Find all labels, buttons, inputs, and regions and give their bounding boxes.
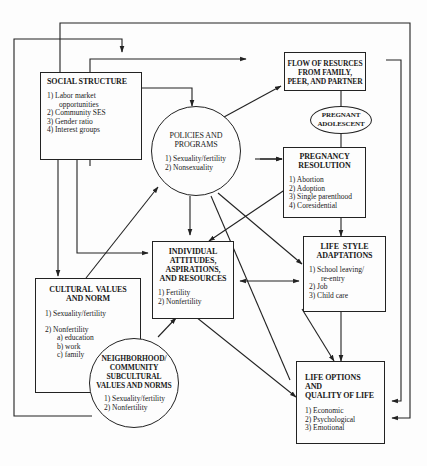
- individual-title-4: AND RESOURCES: [158, 274, 228, 283]
- individual-title-2: ATTITUDES,: [158, 256, 228, 265]
- individual-title-1: INDIVIDUAL: [158, 247, 228, 256]
- policies-title-2: PROGRAMS: [152, 140, 240, 149]
- neighborhood-title-4: VALUES AND NORMS: [90, 381, 178, 390]
- neighborhood-title-1: NEIGHBORHOOD/: [90, 354, 178, 363]
- diagram-canvas: SOCIAL STRUCTURE 1) Labor market opportu…: [0, 0, 427, 466]
- social-item-4: 4) Interest groups: [47, 126, 135, 135]
- node-policies: POLICIES AND PROGRAMS 1) Sexuality/ferti…: [151, 106, 241, 196]
- lifeoptions-title-2: QUALITY OF LIFE: [305, 391, 376, 400]
- neighborhood-community-node: NEIGHBORHOOD/ COMMUNITY SUBCULTURAL VALU…: [89, 338, 179, 428]
- lifeoptions-item-3: 3) Emotional: [305, 424, 376, 433]
- node-flow-resources-box: FLOW OF RESURCES FROM FAMILY, PEER, AND …: [284, 52, 366, 91]
- individual-item-2: 2) Nonfertility: [158, 298, 228, 307]
- neighborhood-title-2: COMMUNITY: [90, 363, 178, 372]
- pregnant-title-2: ADOLESCENT: [311, 120, 371, 129]
- cultural-title-1: CULTURAL VALUES: [45, 285, 131, 294]
- node-pregnant-adolescent: PREGNANT ADOLESCENT: [310, 106, 372, 134]
- cultural-title-2: AND NORM: [45, 294, 131, 303]
- policies-title-1: POLICIES AND: [152, 131, 240, 140]
- resolution-title-1: PREGNANCY: [289, 152, 360, 161]
- cultural-item-1: 1) Sexuality/fertility: [45, 310, 131, 319]
- lifestyle-title-2: ADAPTATIONS: [309, 251, 380, 260]
- resolution-item-4: 4) Coresidential: [289, 202, 360, 211]
- flow-title-3: PEER, AND PARTNER: [285, 77, 365, 86]
- flow-title-1: FLOW OF RESURCES: [285, 59, 365, 68]
- node-individual: INDIVIDUAL ATTITUDES, ASPIRATIONS, AND R…: [152, 241, 234, 319]
- lifestyle-title-1: LIFE STYLE: [309, 242, 380, 251]
- node-life-options: LIFE OPTIONS AND QUALITY OF LIFE 1) Econ…: [296, 361, 385, 444]
- node-social-structure: SOCIAL STRUCTURE 1) Labor market opportu…: [40, 72, 142, 160]
- node-life-style: LIFE STYLE ADAPTATIONS 1) School leaving…: [303, 236, 386, 312]
- node-pregnancy-resolution: PREGNANCY RESOLUTION 1) Abortion 2) Adop…: [283, 147, 366, 218]
- neighborhood-title-3: SUBCULTURAL: [90, 372, 178, 381]
- pregnant-title-1: PREGNANT: [311, 111, 371, 120]
- resolution-title-2: RESOLUTION: [289, 161, 360, 170]
- lifeoptions-title-1: LIFE OPTIONS AND: [305, 373, 376, 391]
- neighborhood-item-2: 2) Nonfertility: [90, 404, 178, 413]
- individual-title-3: ASPIRATIONS,: [158, 265, 228, 274]
- policies-item-2: 2) Nonsexuality: [152, 164, 240, 173]
- lifestyle-item-3: 3) Child care: [309, 292, 380, 301]
- social-structure-title: SOCIAL STRUCTURE: [47, 77, 135, 86]
- flow-title-2: FROM FAMILY,: [285, 68, 365, 77]
